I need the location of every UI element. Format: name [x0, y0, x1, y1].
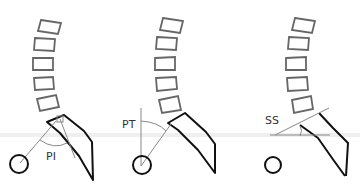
perpendicular-line: [60, 119, 75, 158]
lumbar-vertebrae: [155, 18, 183, 113]
pi-angle-arc: [40, 140, 67, 146]
pt-angle-arc: [141, 121, 166, 131]
femoral-head: [10, 155, 28, 173]
lumbar-vertebrae: [286, 18, 315, 113]
sacrum: [47, 115, 93, 180]
label-ss: SS: [265, 115, 279, 126]
panel-pelvic-tilt: [133, 18, 215, 174]
hip-to-endplate-line: [141, 124, 171, 166]
label-pi: PI: [46, 151, 56, 162]
femoral-head: [265, 157, 281, 173]
label-pt: PT: [122, 119, 135, 130]
lumbar-vertebrae: [33, 20, 61, 111]
panel-sacral-slope: [265, 18, 348, 176]
sacrum: [168, 113, 215, 173]
